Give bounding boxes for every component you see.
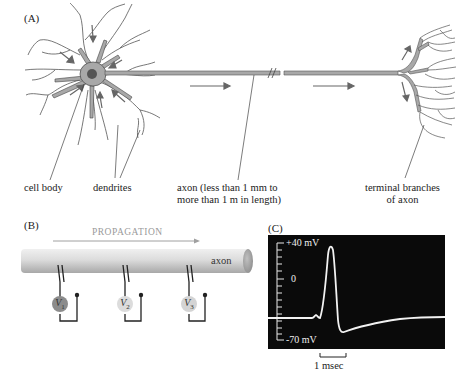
time-scale-bar: [320, 353, 346, 357]
voltage-scale-ruler: [277, 243, 284, 340]
y-label-top: +40 mV: [286, 237, 319, 248]
action-potential-trace: [0, 0, 471, 381]
membrane-potential-trace: [268, 247, 445, 333]
time-scale-label: 1 msec: [314, 360, 343, 371]
y-label-bottom: -70 mV: [286, 334, 317, 345]
y-label-zero: 0: [291, 273, 296, 284]
